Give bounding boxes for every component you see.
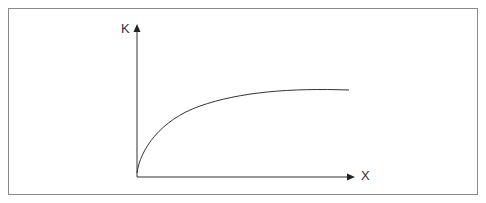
diagram-canvas	[0, 0, 486, 203]
y-axis-label: K	[121, 22, 130, 35]
x-axis-arrow-icon	[347, 174, 355, 181]
x-axis-label: X	[361, 169, 370, 182]
y-axis-arrow-icon	[134, 24, 141, 32]
k-curve	[137, 90, 349, 173]
